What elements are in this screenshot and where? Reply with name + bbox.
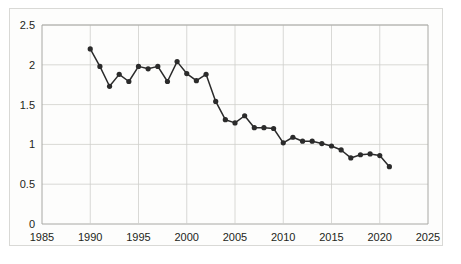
x-axis-tick-label: 2000 — [175, 231, 199, 243]
x-axis-tick-label: 1985 — [30, 231, 54, 243]
data-point-marker — [223, 117, 228, 122]
x-axis-tick-label: 1995 — [126, 231, 150, 243]
x-axis-tick-label: 2025 — [416, 231, 440, 243]
data-point-marker — [300, 139, 305, 144]
data-point-marker — [232, 120, 237, 125]
data-point-marker — [242, 113, 247, 118]
line-chart: 00.511.522.51985199019952000200520102015… — [0, 0, 461, 264]
data-point-marker — [387, 164, 392, 169]
data-point-marker — [184, 71, 189, 76]
data-point-marker — [155, 64, 160, 69]
x-axis-tick-label: 2015 — [319, 231, 343, 243]
data-point-marker — [348, 155, 353, 160]
data-point-marker — [126, 79, 131, 84]
data-point-marker — [136, 64, 141, 69]
y-axis-tick-label: 1.5 — [20, 99, 35, 111]
data-point-marker — [339, 147, 344, 152]
data-point-marker — [358, 152, 363, 157]
data-point-marker — [146, 66, 151, 71]
data-point-marker — [97, 64, 102, 69]
x-axis-tick-label: 2020 — [368, 231, 392, 243]
data-point-marker — [271, 126, 276, 131]
data-point-marker — [117, 72, 122, 77]
x-axis-tick-label: 1990 — [78, 231, 102, 243]
data-point-marker — [368, 151, 373, 156]
data-point-marker — [310, 139, 315, 144]
chart-canvas: 00.511.522.51985199019952000200520102015… — [0, 0, 461, 264]
y-axis-tick-label: 2 — [29, 59, 35, 71]
data-point-marker — [165, 79, 170, 84]
data-point-marker — [175, 59, 180, 64]
data-point-marker — [319, 141, 324, 146]
data-point-marker — [194, 78, 199, 83]
data-point-marker — [252, 125, 257, 130]
data-point-marker — [329, 143, 334, 148]
data-point-marker — [281, 140, 286, 145]
data-point-marker — [107, 84, 112, 89]
data-point-marker — [213, 99, 218, 104]
data-point-marker — [290, 135, 295, 140]
y-axis-tick-label: 2.5 — [20, 19, 35, 31]
data-point-marker — [261, 125, 266, 130]
y-axis-tick-label: 1 — [29, 138, 35, 150]
y-axis-tick-label: 0.5 — [20, 178, 35, 190]
x-axis-tick-label: 2010 — [271, 231, 295, 243]
data-point-marker — [203, 72, 208, 77]
data-point-marker — [88, 46, 93, 51]
x-axis-tick-label: 2005 — [223, 231, 247, 243]
y-axis-tick-label: 0 — [29, 218, 35, 230]
data-point-marker — [377, 153, 382, 158]
